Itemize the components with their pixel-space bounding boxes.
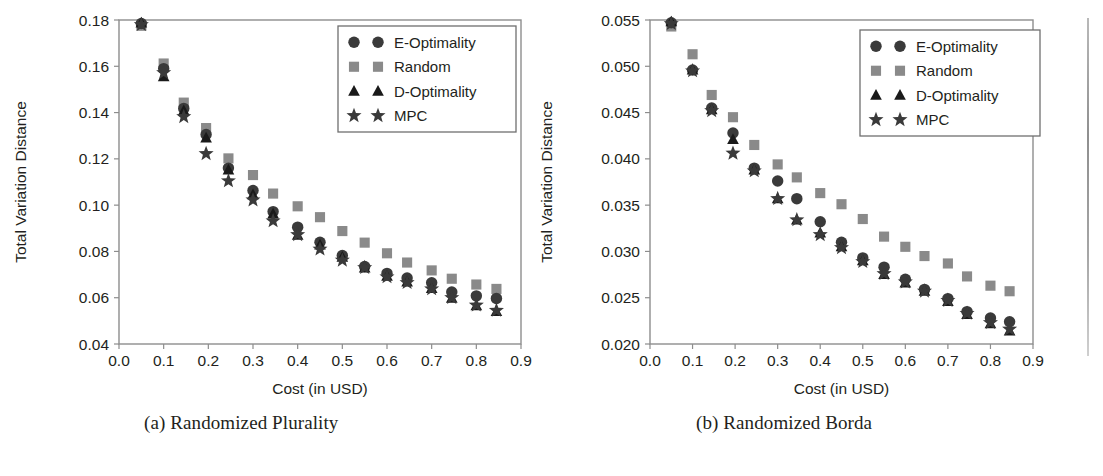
y-tick-label: 0.16 [79, 58, 109, 75]
x-tick-label: 0.7 [937, 352, 959, 369]
x-tick-label: 0.9 [510, 352, 532, 369]
legend-label: MPC [394, 107, 428, 124]
y-tick-label: 0.035 [601, 197, 640, 214]
data-point-square [792, 172, 802, 182]
x-tick-label: 0.3 [242, 352, 264, 369]
data-point-square [223, 153, 233, 163]
legend-marker-square [871, 66, 881, 76]
data-point-square [728, 112, 738, 122]
data-point-star [266, 213, 281, 227]
data-point-circle [491, 293, 502, 304]
legend-label: Random [394, 58, 451, 75]
y-axis-title: Total Variation Distance [538, 101, 555, 263]
x-tick-label: 0.1 [682, 352, 704, 369]
x-tick-label: 0.1 [153, 352, 175, 369]
data-point-square [447, 274, 457, 284]
data-point-square [382, 248, 392, 258]
y-tick-label: 0.045 [601, 104, 640, 121]
x-tick-label: 0.6 [376, 352, 398, 369]
y-tick-label: 0.030 [601, 243, 640, 260]
legend-marker-square [895, 66, 905, 76]
legend-label: D-Optimality [394, 83, 477, 100]
data-point-star [176, 109, 191, 123]
data-point-square [962, 271, 972, 281]
data-point-square [749, 140, 759, 150]
y-tick-label: 0.18 [79, 12, 109, 29]
y-tick-label: 0.055 [601, 12, 640, 29]
data-point-star [245, 192, 260, 206]
data-point-star [199, 146, 214, 160]
data-point-circle [791, 193, 802, 204]
data-point-square [1005, 286, 1015, 296]
y-tick-label: 0.12 [79, 150, 109, 167]
data-point-square [815, 188, 825, 198]
data-point-square [773, 159, 783, 169]
legend-marker-square [349, 62, 359, 72]
y-tick-label: 0.050 [601, 58, 640, 75]
data-point-square [427, 265, 437, 275]
chart-panel-a: 0.00.10.20.30.40.50.60.70.80.90.040.060.… [0, 0, 552, 476]
legend-marker-circle [348, 37, 359, 48]
data-point-star [747, 163, 762, 177]
figure-container: 0.00.10.20.30.40.50.60.70.80.90.040.060.… [0, 0, 1103, 476]
x-tick-label: 0.5 [852, 352, 874, 369]
x-tick-label: 0.7 [421, 352, 443, 369]
data-point-square [315, 212, 325, 222]
x-tick-label: 0.8 [980, 352, 1002, 369]
data-point-star [379, 269, 394, 283]
x-tick-label: 0.4 [287, 352, 309, 369]
data-point-square [900, 242, 910, 252]
data-point-square [707, 90, 717, 100]
data-point-square [858, 214, 868, 224]
legend-marker-circle [372, 37, 383, 48]
caption-panel-b: (b) Randomized Borda [696, 412, 872, 434]
data-point-square [943, 258, 953, 268]
x-tick-label: 0.3 [767, 352, 789, 369]
y-tick-label: 0.10 [79, 197, 110, 214]
plot-a: 0.00.10.20.30.40.50.60.70.80.90.040.060.… [0, 0, 552, 400]
y-tick-label: 0.14 [79, 104, 110, 121]
data-point-circle [772, 175, 783, 186]
data-point-star [725, 145, 740, 159]
data-point-square [471, 279, 481, 289]
legend-marker-square [373, 62, 383, 72]
legend-label: E-Optimality [394, 34, 476, 51]
y-tick-label: 0.04 [79, 336, 110, 353]
data-point-star [813, 227, 828, 241]
chart-panel-b: 0.00.10.20.30.40.50.60.70.80.90.0200.025… [530, 0, 1090, 476]
data-point-square [293, 201, 303, 211]
x-tick-label: 0.4 [809, 352, 831, 369]
x-tick-label: 0.0 [639, 352, 661, 369]
y-tick-label: 0.06 [79, 289, 109, 306]
y-tick-label: 0.020 [601, 336, 640, 353]
x-tick-label: 0.5 [332, 352, 354, 369]
data-point-star [221, 173, 236, 187]
legend-marker-circle [870, 41, 881, 52]
caption-panel-a: (a) Randomized Plurality [144, 412, 338, 434]
legend-marker-circle [894, 41, 905, 52]
data-point-square [985, 281, 995, 291]
data-point-square [360, 238, 370, 248]
legend-label: MPC [916, 111, 950, 128]
plot-b: 0.00.10.20.30.40.50.60.70.80.90.0200.025… [530, 0, 1090, 400]
data-point-square [879, 232, 889, 242]
legend-label: Random [916, 62, 973, 79]
x-tick-label: 0.6 [895, 352, 917, 369]
x-tick-label: 0.0 [108, 352, 130, 369]
data-point-square [919, 251, 929, 261]
y-tick-label: 0.040 [601, 150, 640, 167]
legend-label: E-Optimality [916, 38, 998, 55]
x-tick-label: 0.8 [466, 352, 488, 369]
x-tick-label: 0.2 [724, 352, 746, 369]
y-tick-label: 0.08 [79, 243, 109, 260]
data-point-square [687, 49, 697, 59]
x-tick-label: 0.9 [1022, 352, 1044, 369]
x-tick-label: 0.2 [198, 352, 220, 369]
page-edge-rule [1087, 18, 1089, 356]
x-axis-title: Cost (in USD) [272, 380, 368, 397]
y-axis-title: Total Variation Distance [12, 101, 29, 263]
data-point-square [402, 257, 412, 267]
y-tick-label: 0.025 [601, 289, 640, 306]
data-point-square [836, 199, 846, 209]
data-point-square [248, 170, 258, 180]
